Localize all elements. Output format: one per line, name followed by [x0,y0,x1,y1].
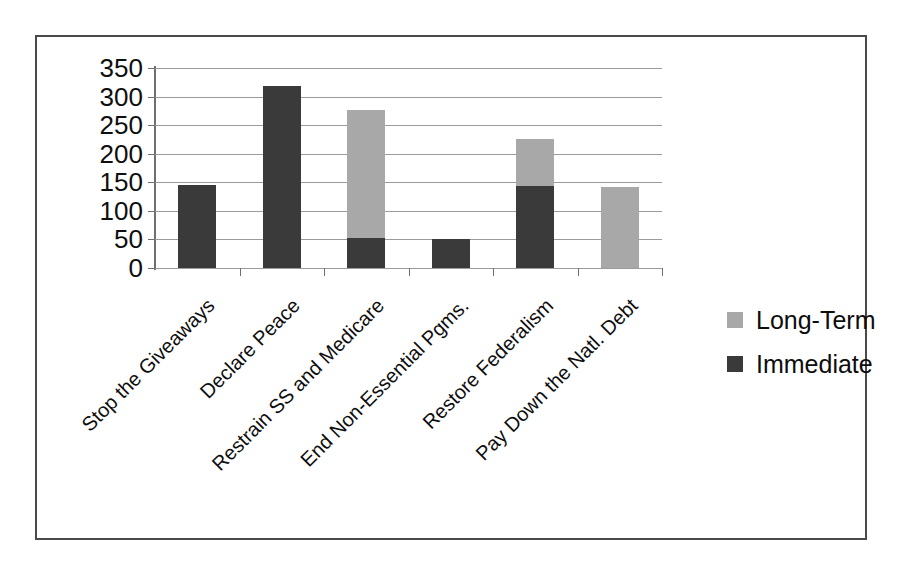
gridline-100 [155,211,662,212]
bar-segment-immediate[interactable] [432,239,470,268]
y-tick-label-50: 50 [114,226,143,252]
y-tick-200 [148,154,155,155]
x-tick-4 [578,268,579,276]
legend-item-immediate[interactable]: Immediate [727,342,876,386]
legend-item-long-term[interactable]: Long-Term [727,298,876,342]
legend-label: Long-Term [756,308,876,333]
bar-4[interactable] [516,139,554,268]
x-tick-3 [493,268,494,276]
bar-2[interactable] [347,110,385,268]
y-tick-250 [148,125,155,126]
x-tick-0 [240,268,241,276]
gridline-300 [155,97,662,98]
y-tick-label-100: 100 [100,198,143,224]
y-tick-label-150: 150 [100,169,143,195]
gridline-250 [155,125,662,126]
y-tick-label-350: 350 [100,55,143,81]
bar-segment-immediate[interactable] [178,185,216,268]
chart-frame: 350300250200150100500 Stop the Giveaways… [35,35,867,540]
y-tick-150 [148,182,155,183]
plot-area: 350300250200150100500 [155,68,662,268]
y-tick-label-0: 0 [129,255,143,281]
bar-1[interactable] [263,86,301,268]
y-tick-label-200: 200 [100,141,143,167]
bar-segment-immediate[interactable] [263,86,301,268]
gridline-150 [155,182,662,183]
bar-segment-long-term[interactable] [347,110,385,239]
y-tick-label-300: 300 [100,84,143,110]
bar-segment-immediate[interactable] [347,238,385,268]
legend-swatch-icon [727,356,743,372]
gridline-350 [155,68,662,69]
gridline-200 [155,154,662,155]
y-tick-300 [148,97,155,98]
y-tick-50 [148,239,155,240]
legend-label: Immediate [756,352,873,377]
gridline-50 [155,239,662,240]
category-label-2: Restrain SS and Medicare [208,295,387,474]
y-tick-label-250: 250 [100,112,143,138]
legend-swatch-icon [727,312,743,328]
y-tick-0 [148,268,155,269]
category-label-5: Pay Down the Natl. Debt [472,295,641,464]
chart-legend: Long-TermImmediate [727,298,876,386]
y-tick-100 [148,211,155,212]
x-tick-1 [324,268,325,276]
bar-segment-long-term[interactable] [601,187,639,268]
x-tick-2 [409,268,410,276]
bar-segment-long-term[interactable] [516,139,554,186]
category-label-3: End Non-Essential Pgms. [297,295,472,470]
x-tick-5 [662,268,663,276]
bar-3[interactable] [432,239,470,268]
category-label-0: Stop the Giveaways [78,295,218,435]
bar-0[interactable] [178,185,216,268]
bar-5[interactable] [601,187,639,268]
bar-segment-immediate[interactable] [516,186,554,268]
y-tick-350 [148,68,155,69]
